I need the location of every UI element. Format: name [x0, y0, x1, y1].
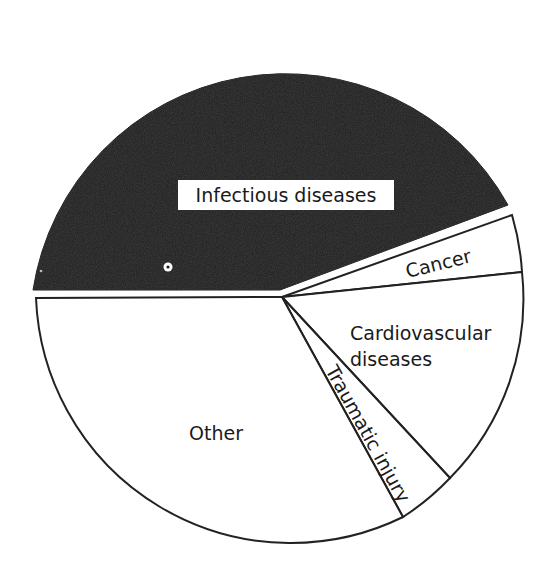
- label-cardiovascular-line1: Cardiovascular: [350, 322, 492, 344]
- label-cardiovascular-line2: diseases: [350, 348, 432, 370]
- label-other: Other: [189, 422, 243, 444]
- label-infectious-text: Infectious diseases: [196, 184, 377, 206]
- pie-chart: Infectious diseases Cancer Cardiovascula…: [0, 0, 550, 573]
- label-infectious-diseases: Infectious diseases: [178, 180, 394, 210]
